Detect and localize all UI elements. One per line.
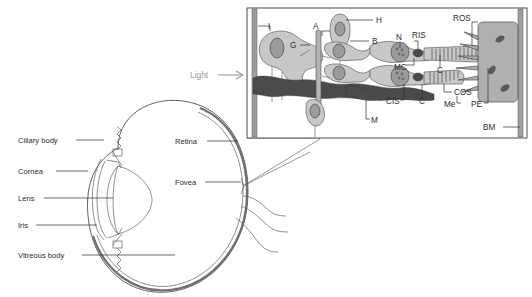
label-ciliary-body: Ciliary body [18,136,58,145]
label-lens: Lens [18,194,35,203]
horizontal-cell-nucleus [335,22,345,36]
rod-nucleus-dot-1 [396,48,399,51]
label-cornea: Cornea [18,167,44,176]
mitochondrion-upper [413,49,423,57]
cone-nucleus-dot-3 [398,77,401,80]
label-iris: Iris [18,221,28,230]
cornea-outline [92,159,104,240]
label-retina: Retina [175,137,198,146]
amacrine-process [316,30,321,106]
label-BM: BM [483,123,495,132]
label-C-upper: C [437,66,443,75]
connector-lower [243,152,310,186]
eye-right-leaders [205,141,241,182]
cornea-outline-inner [97,161,107,238]
label-M: M [371,116,378,125]
light-label: Light [190,70,209,80]
retina-inset: I A G H B N RIS ROS MC C COS CIS C M Me … [247,8,527,138]
label-N: N [396,33,402,42]
label-H: H [376,16,382,25]
cone-nucleus-dot-4 [402,78,405,81]
bipolar-nucleus-lower [333,66,345,80]
label-MC: MC [394,63,407,72]
bipolar-nucleus-upper [333,44,345,58]
zonule-upper [113,152,122,166]
label-ROS: ROS [453,14,471,23]
inner-limiting-membrane [252,9,257,137]
retina-anatomy-figure: Ciliary body Cornea Lens Iris Vitreous b… [0,0,532,297]
label-I: I [268,22,270,31]
label-fovea: Fovea [175,178,197,187]
inset-connector-lines [243,138,320,186]
label-COS: COS [454,88,472,97]
label-CIS: CIS [386,97,400,106]
label-vitreous-body: Vitreous body [18,251,64,260]
label-A: A [313,22,319,31]
amacrine-nucleus-lower [310,104,320,118]
pigment-epithelium [478,22,518,102]
connector-upper [243,139,320,186]
optic-nerve-upper [243,196,286,216]
label-Me: Me [444,100,456,109]
label-RIS: RIS [412,31,426,40]
optic-nerve-mid [241,206,288,232]
retina-band [93,108,247,290]
ciliary-block-bottom [113,241,122,248]
label-PE: PE [471,100,482,109]
mitochondrion-lower [413,73,423,81]
label-G: G [290,41,296,50]
label-C-lower: C [419,97,425,106]
sclera-outline [88,100,248,292]
light-direction-indicator: Light [190,70,243,80]
cone-nucleus-dot-1 [396,72,399,75]
rod-nucleus-dot-4 [402,54,405,57]
lens-outline [107,166,152,234]
bruchs-membrane [518,9,523,137]
cone-nucleus-dot-2 [401,73,404,76]
label-B: B [372,37,378,46]
lens-inner-line [113,166,118,234]
rod-nucleus-dot-2 [401,49,404,52]
rod-nucleus-dot-3 [398,53,401,56]
ganglion-nucleus [270,38,284,58]
